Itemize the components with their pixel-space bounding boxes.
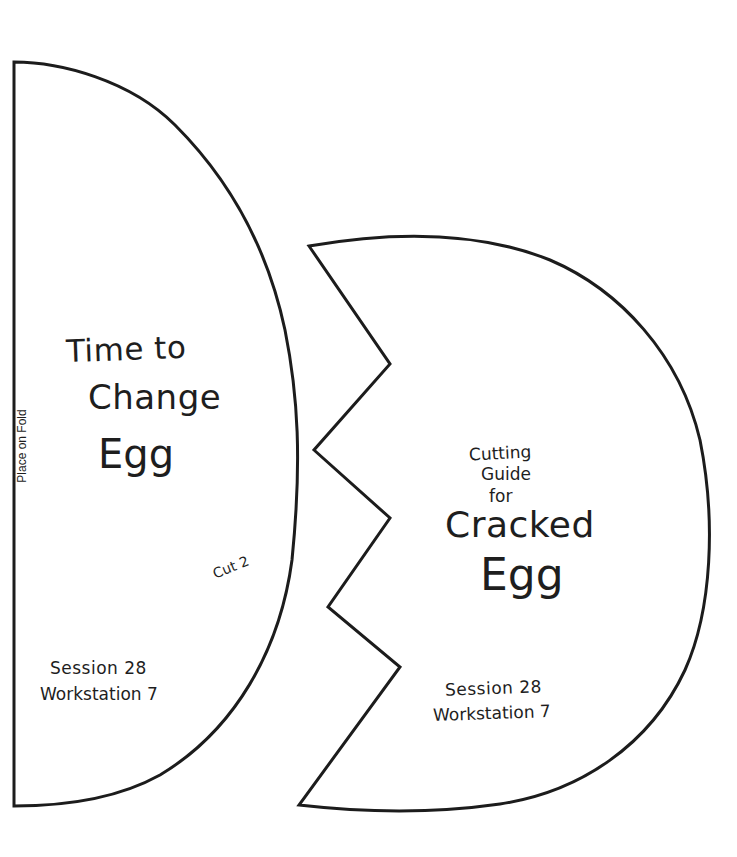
cutting-outlines bbox=[0, 0, 737, 857]
left-title-line-2: Change bbox=[88, 380, 221, 414]
place-on-fold-label: Place on Fold bbox=[16, 396, 28, 496]
right-subtitle-line-3: for bbox=[489, 488, 512, 505]
left-session-label: Session 28 bbox=[50, 660, 147, 677]
right-title-line-2: Egg bbox=[480, 553, 564, 597]
right-title-line-1: Cracked bbox=[445, 507, 595, 543]
right-subtitle-line-2: Guide bbox=[481, 466, 531, 483]
template-page: Place on Fold Time to Change Egg Cut 2 S… bbox=[0, 0, 737, 857]
right-subtitle-line-1: Cutting bbox=[469, 443, 532, 463]
left-title-line-1: Time to bbox=[65, 332, 186, 367]
left-workstation-label: Workstation 7 bbox=[40, 686, 158, 703]
right-session-label: Session 28 bbox=[445, 678, 542, 698]
right-workstation-label: Workstation 7 bbox=[433, 703, 551, 724]
left-title-line-3: Egg bbox=[98, 434, 174, 474]
